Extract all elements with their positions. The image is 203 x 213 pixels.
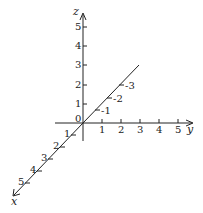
y-tick-5: 5 [175,124,181,135]
y-ticks [102,119,178,123]
y-tick-4: 4 [156,124,162,135]
y-tick-2: 2 [118,124,124,135]
x-tick-5: 5 [18,176,24,187]
z-tick-2: 2 [75,79,81,90]
axes-diagram: z 0 1 2 3 4 5 y 1 2 3 4 5 -1 -2 -3 x [0,0,203,213]
x-neg-tick-1: -1 [101,105,111,116]
x-neg-tick-3: -3 [125,80,135,91]
z-tick-5: 5 [75,21,81,32]
x-axis-label: x [11,195,18,208]
x-tick-1: 1 [64,128,70,139]
x-negative-axis-line [83,65,139,123]
z-ticks [83,27,87,104]
z-axis-label: z [72,5,79,18]
z-tick-4: 4 [75,40,81,51]
x-tick-2: 2 [53,140,59,151]
z-tick-0: 0 [75,113,81,124]
x-tick-3: 3 [41,152,47,163]
y-tick-3: 3 [137,124,143,135]
z-tick-1: 1 [75,98,81,109]
y-tick-1: 1 [99,124,105,135]
y-axis-label: y [186,123,194,136]
x-neg-tick-2: -2 [113,93,123,104]
z-tick-3: 3 [75,59,81,70]
x-tick-4: 4 [30,164,36,175]
